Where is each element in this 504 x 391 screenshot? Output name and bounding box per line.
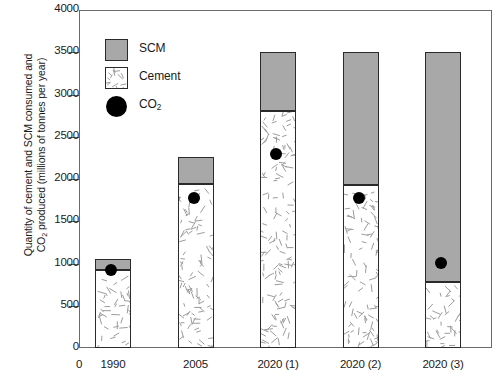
x-tick-label: 0 <box>76 358 82 370</box>
y-tick-label: 4000 <box>17 2 79 14</box>
co2-marker <box>188 192 200 204</box>
y-tick-label: 1500 <box>17 213 79 225</box>
bar-2005 <box>178 157 214 348</box>
legend-label-scm: SCM <box>139 41 165 55</box>
y-tick-label: 2500 <box>17 129 79 141</box>
cement-swatch-icon <box>105 67 128 89</box>
y-tick-label: 3500 <box>17 44 79 56</box>
x-tick-label: 2005 <box>183 358 208 370</box>
co2-marker <box>435 257 447 269</box>
x-tick-label: 1990 <box>101 358 126 370</box>
x-tick-label: 2020 (2) <box>340 358 381 370</box>
y-tick-label: 500 <box>17 298 79 310</box>
y-tick-label: 0 <box>17 340 79 352</box>
bar-2020-3- <box>425 52 461 348</box>
bar-segment-scm <box>425 52 461 282</box>
bar-segment-cement <box>343 185 379 348</box>
y-tick-label: 2000 <box>17 171 79 183</box>
co2-marker <box>105 264 117 276</box>
chart-figure: Quantity of cement and SCM consumed and … <box>0 0 504 391</box>
y-tick-label: 3000 <box>17 87 79 99</box>
y-axis: 05001000150020002500300035004000 <box>0 0 79 391</box>
co2-swatch-icon <box>105 95 128 117</box>
y-tick-label: 1000 <box>17 256 79 268</box>
bar-segment-scm <box>178 157 214 184</box>
legend-label-cement: Cement <box>139 69 180 83</box>
bar-segment-cement <box>95 270 131 348</box>
co2-marker <box>270 148 282 160</box>
bar-segment-cement <box>178 184 214 348</box>
x-tick-label: 2020 (1) <box>257 358 298 370</box>
bar-segment-scm <box>260 52 296 110</box>
bar-segment-scm <box>343 52 379 185</box>
bar-segment-cement <box>260 111 296 348</box>
legend-label-co2: CO2 <box>139 97 161 111</box>
bar-2020-1- <box>260 52 296 348</box>
co2-marker <box>353 192 365 204</box>
scm-swatch-icon <box>105 39 128 61</box>
x-tick-label: 2020 (3) <box>422 358 463 370</box>
bar-segment-cement <box>425 282 461 348</box>
